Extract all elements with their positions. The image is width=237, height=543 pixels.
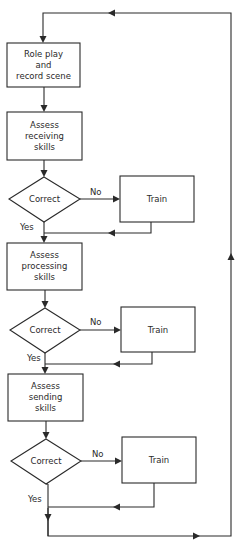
- assess-sending-line-3: skills: [35, 403, 56, 413]
- arrow-down-icon: [42, 301, 49, 308]
- yes-label-2: Yes: [26, 353, 41, 363]
- svg-text:Assess: Assess: [30, 250, 59, 260]
- role-play-line-1: Role play: [24, 49, 63, 59]
- decision-1-diamond: Correct: [9, 177, 80, 222]
- train-2-box: Train: [121, 307, 195, 352]
- arrow-down-icon: [41, 105, 48, 112]
- arrow-down-icon: [41, 236, 48, 243]
- arrow-down-icon: [42, 367, 49, 374]
- connector-decision-1-yes: Yes: [19, 222, 48, 243]
- role-play-line-2: and: [36, 60, 52, 70]
- connector-decision-2-yes: Yes: [26, 353, 49, 374]
- arrow-down-icon: [43, 432, 50, 439]
- assess-processing-line-1: Assess: [30, 250, 59, 260]
- assess-receiving-line-3: skills: [34, 142, 55, 152]
- arrow-up-icon: [228, 253, 235, 260]
- arrow-down-icon: [41, 170, 48, 177]
- connector-decision-1-no: No: [80, 187, 120, 203]
- connector-train-3-return: [48, 483, 154, 511]
- connector-sending-to-decision-3: [43, 421, 50, 439]
- decision-3-diamond: Correct: [11, 439, 81, 484]
- no-label-3: No: [92, 449, 104, 459]
- connector-roleplay-to-receiving: [41, 87, 48, 112]
- svg-text:Assess: Assess: [31, 381, 60, 391]
- role-play-line-3: record scene: [16, 71, 71, 81]
- connector-decision-3-yes: Yes: [27, 484, 52, 536]
- arrow-left-icon: [113, 361, 120, 368]
- connector-train-1-return: [44, 222, 151, 237]
- flowchart: Role play and record scene Assess receiv…: [0, 0, 237, 543]
- arrow-down-icon: [45, 514, 52, 521]
- assess-processing-box: Assess processing skills: [7, 243, 82, 290]
- svg-text:skills: skills: [34, 272, 55, 282]
- assess-receiving-line-2: receiving: [25, 131, 64, 141]
- arrow-left-icon: [113, 504, 120, 511]
- svg-text:skills: skills: [34, 142, 55, 152]
- connector-decision-3-no: No: [81, 449, 122, 465]
- no-label-2: No: [90, 317, 102, 327]
- role-play-box: Role play and record scene: [7, 43, 80, 87]
- assess-sending-line-2: sending: [29, 392, 63, 402]
- arrow-left-icon: [108, 10, 115, 17]
- decision-2-diamond: Correct: [10, 308, 80, 353]
- arrow-right-icon: [115, 458, 122, 465]
- arrow-right-icon: [114, 327, 121, 334]
- arrow-left-icon: [108, 230, 115, 237]
- connector-receiving-to-decision-1: [41, 160, 48, 177]
- yes-label-3: Yes: [27, 494, 42, 504]
- svg-text:skills: skills: [35, 403, 56, 413]
- connector-train-2-return: [45, 352, 152, 368]
- train-3-box: Train: [122, 437, 196, 483]
- assess-processing-line-2: processing: [22, 261, 68, 271]
- connector-decision-2-no: No: [80, 317, 121, 334]
- assess-receiving-line-1: Assess: [30, 120, 59, 130]
- svg-text:Assess: Assess: [30, 120, 59, 130]
- connector-processing-to-decision-2: [42, 290, 49, 308]
- arrow-right-icon: [193, 533, 200, 540]
- train-1-box: Train: [120, 176, 194, 222]
- train-1-label: Train: [146, 194, 167, 204]
- train-3-label: Train: [148, 455, 169, 465]
- decision-2-label: Correct: [29, 325, 61, 335]
- svg-text:processing: processing: [22, 261, 68, 271]
- assess-processing-line-3: skills: [34, 272, 55, 282]
- decision-3-label: Correct: [30, 456, 62, 466]
- train-2-label: Train: [147, 325, 168, 335]
- assess-receiving-box: Assess receiving skills: [7, 112, 82, 160]
- svg-text:receiving: receiving: [25, 131, 64, 141]
- svg-text:Role play: Role play: [24, 49, 63, 59]
- no-label-1: No: [90, 187, 102, 197]
- svg-text:record scene: record scene: [16, 71, 71, 81]
- decision-1-label: Correct: [29, 194, 61, 204]
- svg-text:sending: sending: [29, 392, 63, 402]
- arrow-right-icon: [113, 196, 120, 203]
- assess-sending-line-1: Assess: [31, 381, 60, 391]
- arrow-down-icon: [40, 36, 47, 43]
- assess-sending-box: Assess sending skills: [8, 374, 83, 421]
- yes-label-1: Yes: [19, 222, 34, 232]
- svg-text:and: and: [36, 60, 52, 70]
